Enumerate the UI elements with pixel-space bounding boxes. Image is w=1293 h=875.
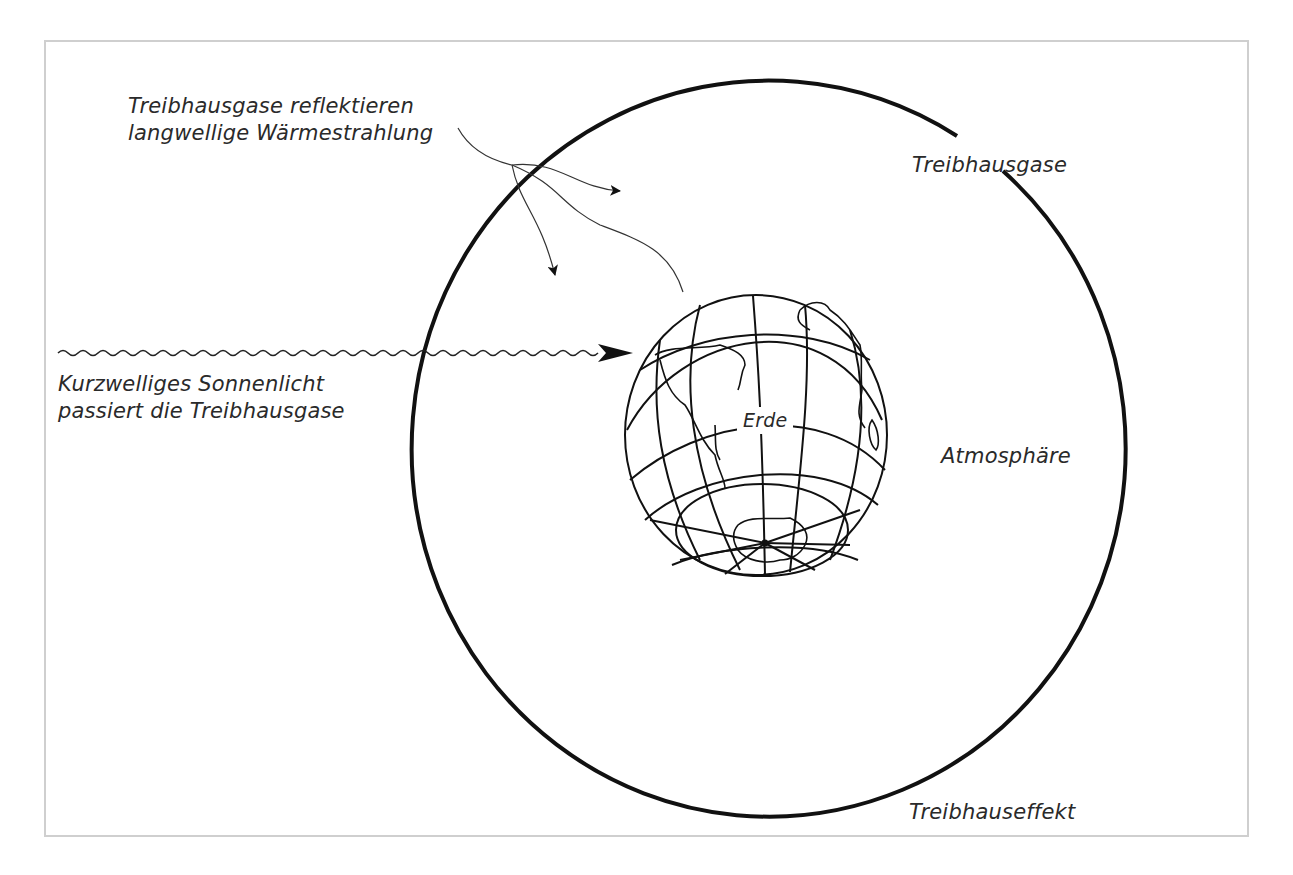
earth-label: Erde bbox=[737, 407, 793, 434]
sunlight-label-line1: Kurzwelliges Sonnenlicht bbox=[58, 371, 345, 398]
greenhouse-gases-label: Treibhausgase bbox=[912, 152, 1067, 179]
reflection-label-line2: langwellige Wärmestrahlung bbox=[128, 120, 433, 147]
sunlight-label-line2: passiert die Treibhausgase bbox=[58, 398, 345, 425]
reflected-arrows-icon bbox=[458, 128, 683, 292]
diagram-caption: Treibhauseffekt bbox=[909, 799, 1075, 826]
sunlight-label: Kurzwelliges Sonnenlicht passiert die Tr… bbox=[58, 371, 345, 425]
reflection-label: Treibhausgase reflektieren langwellige W… bbox=[128, 93, 433, 147]
wavy-arrow-icon bbox=[58, 344, 633, 362]
reflection-label-line1: Treibhausgase reflektieren bbox=[128, 93, 433, 120]
globe-icon bbox=[625, 295, 887, 576]
atmosphere-label: Atmosphäre bbox=[941, 443, 1071, 470]
